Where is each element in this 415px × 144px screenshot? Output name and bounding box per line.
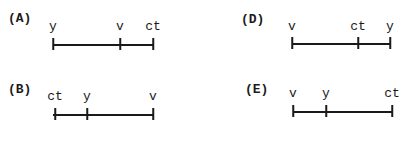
timeline-axis-line [292, 43, 390, 45]
tick-mark-v [152, 108, 154, 120]
tick-mark-ct [391, 105, 393, 117]
tick-label-y: y [386, 20, 394, 33]
tick-mark-v [291, 37, 293, 49]
tick-label-v: v [149, 90, 157, 103]
tick-label-y: y [49, 20, 57, 33]
tick-label-y: y [322, 87, 330, 100]
timeline-axis-line [53, 114, 153, 116]
option-label: (A) [8, 12, 31, 25]
tick-mark-ct [152, 38, 154, 50]
tick-mark-y [52, 38, 54, 50]
tick-label-v: v [288, 20, 296, 33]
tick-mark-v [292, 105, 294, 117]
tick-label-v: v [116, 20, 124, 33]
timeline-axis-line [53, 44, 153, 46]
tick-label-ct: ct [350, 20, 366, 33]
tick-mark-y [86, 108, 88, 120]
option-label: (B) [8, 83, 31, 96]
tick-label-y: y [83, 90, 91, 103]
tick-mark-ct [357, 37, 359, 49]
tick-mark-y [325, 105, 327, 117]
tick-label-v: v [289, 87, 297, 100]
tick-mark-ct [54, 108, 56, 120]
option-label: (D) [241, 13, 264, 26]
tick-mark-v [119, 38, 121, 50]
tick-mark-y [389, 37, 391, 49]
tick-label-ct: ct [384, 87, 400, 100]
tick-label-ct: ct [47, 90, 63, 103]
timeline-axis-line [293, 111, 392, 113]
tick-label-ct: ct [145, 20, 161, 33]
option-label: (E) [245, 83, 268, 96]
